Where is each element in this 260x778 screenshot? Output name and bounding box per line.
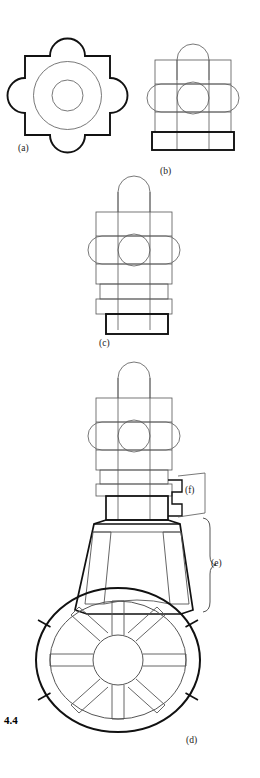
technical-drawing-canvas — [0, 0, 260, 778]
panel-d-assembly — [36, 362, 216, 732]
panel-label-e: (e) — [211, 558, 222, 568]
panel-label-d: (d) — [186, 735, 197, 745]
panel-label-b: (b) — [160, 166, 171, 176]
panel-a-plan — [8, 39, 128, 153]
panel-label-a: (a) — [18, 143, 29, 153]
panel-b-elevation — [147, 44, 239, 150]
detail-f-notch — [168, 473, 205, 517]
panel-label-c: (c) — [99, 338, 110, 348]
figure-number: 4.4 — [4, 714, 18, 726]
panel-c-elevation-stepped — [88, 176, 180, 334]
figure-4-4: 4.4 (a) (b) (c) (d) (e) (f) — [0, 0, 260, 778]
assembly-wheel-rosette — [36, 588, 200, 732]
assembly-flared-shaft — [75, 520, 193, 614]
panel-label-f: (f) — [185, 485, 195, 495]
assembly-upper-block — [88, 362, 180, 520]
